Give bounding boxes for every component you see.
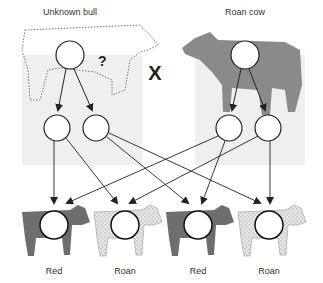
- cow-genotype-circle: [231, 41, 259, 69]
- offspring-label-3: Red: [178, 266, 218, 276]
- question-mark: ?: [98, 53, 107, 69]
- unknown-bull-label: Unknown bull: [20, 7, 120, 17]
- offspring-calf-3: [166, 205, 234, 256]
- bull-gamete-1: [44, 115, 70, 141]
- bull-gamete-2: [83, 115, 109, 141]
- cow-gamete-2: [255, 115, 281, 141]
- offspring-label-1: Red: [34, 266, 74, 276]
- cow-gamete-1: [216, 115, 242, 141]
- offspring-calf-1: [22, 205, 90, 256]
- bull-genotype-circle: [56, 41, 84, 69]
- cross-symbol: X: [148, 62, 162, 84]
- left-panel-bg: [22, 55, 142, 165]
- offspring-label-2: Roan: [105, 266, 145, 276]
- offspring-label-4: Roan: [249, 266, 289, 276]
- offspring-calf-4: [238, 205, 306, 256]
- roan-cow-label: Roan cow: [205, 7, 285, 17]
- genetics-cross-diagram: X ?: [0, 0, 323, 283]
- offspring-calf-2: [94, 205, 162, 256]
